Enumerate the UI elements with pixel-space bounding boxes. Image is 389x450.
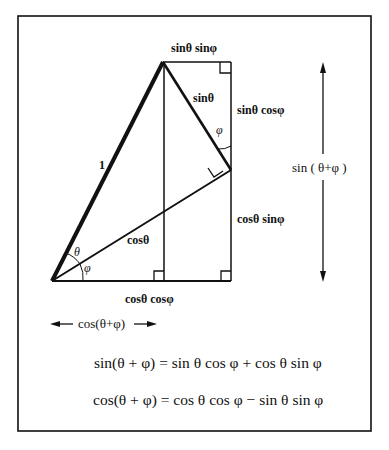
label-angle-phi-bottom: φ — [84, 262, 91, 274]
label-sin-theta-side: sinθ — [193, 92, 214, 104]
label-cos-theta-side: cosθ — [127, 234, 149, 246]
right-angle-mark-bottom-right — [221, 271, 231, 281]
right-angle-mark-top-right — [220, 62, 231, 73]
label-right-lower-segment: cosθ sinφ — [237, 213, 284, 225]
hypotenuse-one-line — [52, 62, 163, 281]
label-right-upper-segment: sinθ cosφ — [237, 104, 284, 116]
label-horizontal-arrow: cos(θ+φ) — [78, 317, 125, 330]
equation-sin-sum: sin(θ + φ) = sin θ cos φ + cos θ sin φ — [94, 355, 322, 371]
label-angle-theta: θ — [74, 246, 80, 258]
right-angle-mark-bottom-middle — [154, 271, 164, 281]
label-vertical-arrow: sin ( θ+φ ) — [292, 161, 347, 174]
sin-theta-line — [163, 62, 231, 170]
arrow-down-icon — [320, 271, 326, 282]
label-hypotenuse-one: 1 — [99, 159, 105, 171]
label-top-segment: sinθ sinφ — [171, 42, 217, 54]
diagram-canvas — [0, 0, 389, 450]
label-angle-phi-top: φ — [216, 124, 223, 136]
arrow-right-icon — [147, 321, 157, 327]
label-bottom-segment: cosθ cosφ — [125, 293, 174, 305]
arrow-up-icon — [320, 62, 326, 73]
angle-arc-phi — [80, 264, 83, 281]
arrow-left-icon — [50, 321, 60, 327]
angle-arc-phi-top — [218, 146, 231, 149]
equation-cos-sum: cos(θ + φ) = cos θ cos φ − sin θ sin φ — [93, 392, 323, 408]
